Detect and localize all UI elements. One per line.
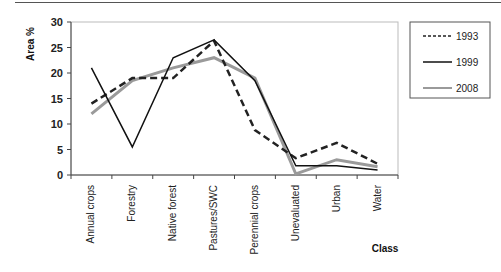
y-tick-label: 20 (51, 67, 63, 79)
y-axis-title: Area % (25, 27, 36, 61)
x-category-label: Annual crops (85, 185, 96, 243)
x-category-label: Water (372, 184, 383, 211)
y-tick-label: 5 (57, 144, 63, 156)
y-tick-label: 10 (51, 118, 63, 130)
legend-label-1993: 1993 (456, 31, 479, 42)
y-tick-label: 25 (51, 42, 63, 54)
x-category-label: Forestry (126, 185, 137, 222)
y-tick-label: 15 (51, 93, 63, 105)
plot-area (71, 22, 398, 175)
x-category-label: Unevaluated (290, 185, 301, 241)
legend-label-2008: 2008 (456, 83, 479, 94)
series-line-2008 (91, 58, 377, 174)
legend-label-1999: 1999 (456, 57, 479, 68)
plot-frame (71, 22, 398, 175)
line-chart: 051015202530 Annual cropsForestryNative … (0, 0, 501, 272)
x-axis: Annual cropsForestryNative forestPasture… (71, 175, 398, 254)
series-line-1999 (91, 40, 377, 170)
x-axis-title: Class (372, 243, 399, 254)
x-category-label: Pastures/SWC (208, 185, 219, 251)
series-lines (91, 40, 377, 174)
x-category-label: Urban (331, 185, 342, 212)
legend: 199319992008 (410, 22, 490, 98)
y-axis: 051015202530 (51, 16, 71, 181)
y-tick-label: 30 (51, 16, 63, 28)
y-tick-label: 0 (57, 169, 63, 181)
x-category-label: Perennial crops (249, 185, 260, 254)
x-category-label: Native forest (167, 185, 178, 241)
